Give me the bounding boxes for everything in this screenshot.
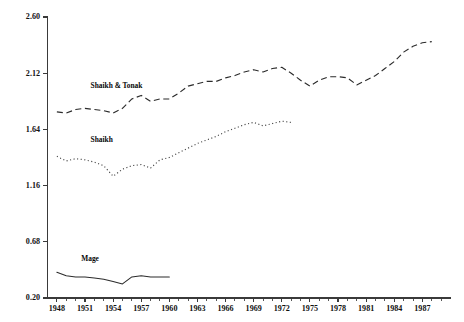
y-axis-tick-label: 0.68 bbox=[26, 237, 40, 246]
x-axis-tick-label: 1987 bbox=[414, 304, 430, 313]
series-line-mage bbox=[57, 272, 169, 284]
series-label-mage: Mage bbox=[81, 254, 99, 263]
x-axis-tick-label: 1957 bbox=[133, 304, 149, 313]
x-axis-tick-labels: 1948195119541957196019631966196919721975… bbox=[49, 304, 431, 313]
x-axis-tick-label: 1978 bbox=[330, 304, 346, 313]
x-axis-tick-label: 1966 bbox=[217, 304, 233, 313]
x-axis-tick-label: 1981 bbox=[358, 304, 374, 313]
chart-axes bbox=[48, 17, 451, 298]
y-axis-tick-label: 2.60 bbox=[26, 12, 40, 21]
y-axis-tick-label: 2.12 bbox=[26, 69, 40, 78]
chart-ticks bbox=[43, 17, 441, 302]
x-axis-tick-label: 1948 bbox=[49, 304, 65, 313]
x-axis-tick-label: 1984 bbox=[386, 304, 402, 313]
x-axis-tick-label: 1969 bbox=[246, 304, 262, 313]
series-line-shaikh-tonak bbox=[57, 42, 432, 113]
chart-figure: 2.602.121.641.160.680.20 194819511954195… bbox=[0, 0, 464, 322]
line-chart: 2.602.121.641.160.680.20 194819511954195… bbox=[0, 0, 464, 322]
x-axis-tick-label: 1963 bbox=[189, 304, 205, 313]
x-axis-tick-label: 1972 bbox=[274, 304, 290, 313]
y-axis-tick-label: 1.64 bbox=[26, 125, 40, 134]
series-line-shaikh bbox=[57, 121, 291, 176]
y-axis-tick-label: 0.20 bbox=[26, 293, 40, 302]
chart-series bbox=[57, 42, 432, 284]
x-axis-tick-label: 1951 bbox=[77, 304, 93, 313]
y-axis-tick-label: 1.16 bbox=[26, 181, 40, 190]
x-axis-tick-label: 1954 bbox=[105, 304, 121, 313]
x-axis-tick-label: 1960 bbox=[161, 304, 177, 313]
y-axis-tick-labels: 2.602.121.641.160.680.20 bbox=[26, 12, 40, 302]
series-label-shaikh: Shaikh bbox=[91, 135, 113, 144]
x-axis-tick-label: 1975 bbox=[302, 304, 318, 313]
series-label-shaikh-tonak: Shaikh & Tonak bbox=[91, 81, 144, 90]
